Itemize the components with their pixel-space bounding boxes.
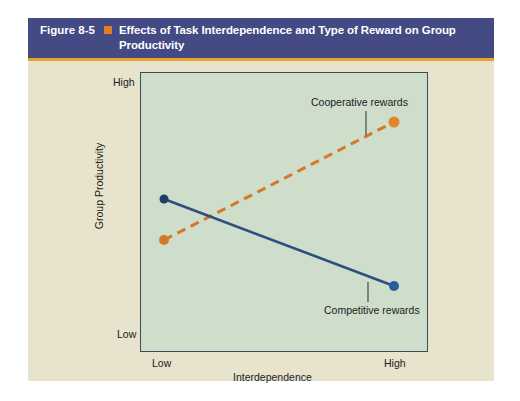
figure-title: Effects of Task Interdependence and Type… [119,23,484,52]
square-bullet-icon [104,26,112,34]
x-axis-tick-low: Low [152,357,171,369]
y-axis-tick-high: High [113,76,135,88]
figure-header-row: Figure 8-5 Effects of Task Interdependen… [40,23,484,52]
header-accent-rule [28,58,494,61]
figure-number: Figure 8-5 [40,23,95,37]
series-label-competitive: Competitive rewards [324,304,420,316]
x-axis-title: Interdependence [233,371,312,383]
y-axis-title: Group Productivity [93,81,105,291]
series-label-cooperative: Cooperative rewards [311,96,408,108]
figure-header: Figure 8-5 Effects of Task Interdependen… [28,18,494,58]
x-axis-tick-high: High [384,357,406,369]
y-axis-tick-low: Low [117,328,136,340]
